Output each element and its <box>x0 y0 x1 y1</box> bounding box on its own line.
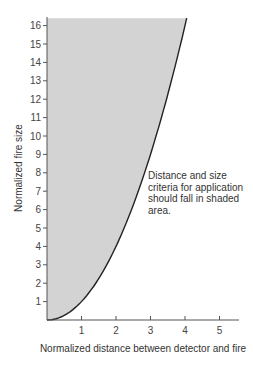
x-axis-label: Normalized distance between detector and… <box>40 343 247 354</box>
y-tick-label: 16 <box>30 20 42 31</box>
x-tick-label: 1 <box>79 325 85 336</box>
y-tick-label: 15 <box>30 39 42 50</box>
y-tick-label: 10 <box>30 131 42 142</box>
x-tick-label: 5 <box>217 325 223 336</box>
x-tick-label: 2 <box>113 325 119 336</box>
y-ticks: 12345678910111213141516 <box>30 20 47 307</box>
y-tick-label: 11 <box>31 112 42 123</box>
y-tick-label: 1 <box>35 296 41 307</box>
y-tick-label: 6 <box>35 204 41 215</box>
y-tick-label: 3 <box>35 259 41 270</box>
x-tick-label: 3 <box>148 325 154 336</box>
y-tick-label: 12 <box>30 94 42 105</box>
x-tick-label: 4 <box>182 325 188 336</box>
y-tick-label: 14 <box>30 57 42 68</box>
y-tick-label: 5 <box>35 223 41 234</box>
y-tick-label: 4 <box>35 241 41 252</box>
x-ticks: 12345 <box>79 316 223 336</box>
y-tick-label: 7 <box>35 186 41 197</box>
y-tick-label: 13 <box>30 75 42 86</box>
y-tick-label: 9 <box>35 149 41 160</box>
annotation-text: Distance and size criteria for applicati… <box>148 170 253 216</box>
y-axis-label: Normalized fire size <box>13 124 24 212</box>
y-tick-label: 2 <box>35 278 41 289</box>
y-tick-label: 8 <box>35 167 41 178</box>
